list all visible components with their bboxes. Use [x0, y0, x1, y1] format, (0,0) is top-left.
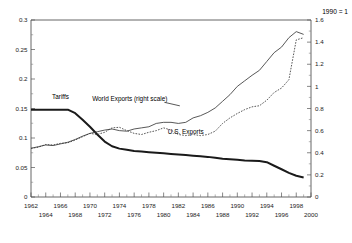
x-tick-label-lower: 2000 [304, 211, 318, 218]
x-tick-label-upper: 1982 [171, 202, 185, 209]
right-tick-label: 1.2 [315, 60, 324, 67]
x-tick-label-upper: 1966 [54, 202, 68, 209]
x-tick-label-upper: 1994 [260, 202, 274, 209]
left-tick-label: 0.2 [19, 75, 28, 82]
x-tick-label-lower: 1984 [186, 211, 200, 218]
x-tick-label-lower: 1992 [245, 211, 259, 218]
annotation-world-exports: World Exports (right scale) [92, 95, 167, 103]
left-tick-label: 0.05 [15, 164, 28, 171]
x-tick-label-lower: 1968 [68, 211, 82, 218]
right-tick-label: 1.6 [315, 16, 324, 23]
left-tick-label: 0.3 [19, 16, 28, 23]
x-tick-label-upper: 1978 [142, 202, 156, 209]
right-tick-label: 1.4 [315, 38, 324, 45]
x-tick-label-lower: 1980 [157, 211, 171, 218]
x-tick-label-upper: 1998 [289, 202, 303, 209]
line-chart: 00.050.10.150.20.250.3 00.20.40.60.811.2… [0, 0, 352, 243]
right-tick-label: 0.4 [315, 149, 324, 156]
right-tick-label: 0.6 [315, 127, 324, 134]
x-tick-label-lower: 1988 [216, 211, 230, 218]
x-tick-label-upper: 1970 [83, 202, 97, 209]
annotation-tariffs: Tariffs [52, 93, 69, 100]
x-tick-label-lower: 1976 [127, 211, 141, 218]
annotation-us-exports: U.S. Exports [168, 128, 204, 136]
x-tick-label-lower: 1964 [39, 211, 53, 218]
right-tick-label: 0 [315, 193, 319, 200]
chart-container: 00.050.10.150.20.250.3 00.20.40.60.811.2… [0, 0, 352, 243]
x-tick-label-upper: 1962 [24, 202, 38, 209]
x-tick-label-upper: 1974 [113, 202, 127, 209]
left-tick-label: 0.15 [15, 105, 28, 112]
x-tick-label-upper: 1986 [201, 202, 215, 209]
left-tick-label: 0.25 [15, 46, 28, 53]
right-tick-label: 0.8 [315, 105, 324, 112]
left-tick-label: 0.1 [19, 134, 28, 141]
x-tick-label-lower: 1972 [98, 211, 112, 218]
right-axis-note: 1990 = 1 [322, 8, 348, 15]
left-tick-label: 0 [24, 193, 28, 200]
x-tick-label-upper: 1990 [230, 202, 244, 209]
right-axis-tick-labels: 00.20.40.60.811.21.41.6 [315, 16, 324, 200]
right-tick-label: 0.2 [315, 171, 324, 178]
right-tick-label: 1 [315, 83, 319, 90]
x-tick-label-lower: 1996 [275, 211, 289, 218]
